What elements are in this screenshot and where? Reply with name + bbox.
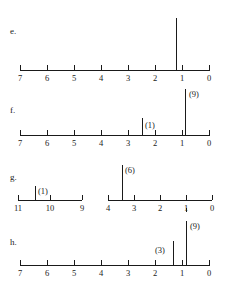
- spectrum-peak: [35, 186, 36, 200]
- axis-tick: [128, 65, 129, 70]
- peak-integral-label: (9): [189, 89, 199, 99]
- axis-tick-label: 6: [40, 73, 54, 83]
- axis-tick-label: 2: [148, 73, 162, 83]
- axis-baseline-g-right: [108, 200, 212, 201]
- axis-tick: [101, 260, 102, 265]
- axis-tick: [20, 65, 21, 70]
- axis-tick-label: 9: [75, 203, 89, 213]
- axis-tick: [182, 65, 183, 70]
- axis-tick-label: 3: [121, 268, 135, 278]
- spectrum-panel-h: h. 76543210(3)(9): [0, 215, 231, 281]
- axis-baseline-g-left: [18, 200, 82, 201]
- spectrum-peak: [122, 165, 123, 200]
- axis-subtick-below: [186, 208, 187, 212]
- peak-integral-label: (3): [155, 245, 165, 255]
- spectrum-peak: [185, 89, 186, 135]
- axis-h: 76543210(3)(9): [0, 215, 231, 281]
- axis-g-left-segment: 11109(1)43210(6): [0, 150, 231, 215]
- axis-tick-label: 0: [202, 268, 216, 278]
- spectrum-peak: [176, 18, 177, 70]
- axis-tick: [212, 195, 213, 200]
- axis-tick: [18, 195, 19, 200]
- axis-tick-label: 1: [175, 268, 189, 278]
- axis-e: 76543210: [0, 0, 231, 85]
- axis-tick-label: 4: [94, 138, 108, 148]
- peak-integral-label: (1): [145, 120, 155, 130]
- axis-tick: [182, 260, 183, 265]
- axis-tick-label: 2: [153, 203, 167, 213]
- spectrum-peak: [186, 221, 187, 265]
- axis-tick-label: 2: [148, 138, 162, 148]
- axis-tick-label: 3: [121, 138, 135, 148]
- axis-tick: [47, 260, 48, 265]
- nmr-spectra-figure: e. 76543210 f. 76543210(1)(9) g. 11109(1…: [0, 0, 231, 281]
- axis-tick: [20, 130, 21, 135]
- axis-tick-label: 1: [175, 73, 189, 83]
- axis-tick: [74, 260, 75, 265]
- axis-tick-label: 4: [101, 203, 115, 213]
- axis-tick-label: 10: [43, 203, 57, 213]
- axis-tick-label: 4: [94, 73, 108, 83]
- axis-tick-label: 0: [202, 73, 216, 83]
- axis-tick-label: 11: [11, 203, 25, 213]
- axis-tick: [209, 130, 210, 135]
- peak-integral-label: (6): [125, 165, 135, 175]
- axis-tick: [47, 130, 48, 135]
- axis-tick-label: 1: [175, 138, 189, 148]
- axis-tick-label: 7: [13, 138, 27, 148]
- peak-integral-label: (9): [190, 221, 200, 231]
- peak-integral-label: (1): [38, 186, 48, 196]
- axis-tick-label: 2: [148, 268, 162, 278]
- axis-tick-label: 5: [67, 73, 81, 83]
- axis-tick-label: 6: [40, 138, 54, 148]
- axis-tick: [186, 195, 187, 200]
- axis-tick-label: 4: [94, 268, 108, 278]
- axis-tick: [47, 65, 48, 70]
- axis-tick-label: 7: [13, 268, 27, 278]
- axis-tick-label: 0: [202, 138, 216, 148]
- axis-tick: [155, 130, 156, 135]
- axis-tick-label: 3: [121, 73, 135, 83]
- spectrum-peak: [173, 241, 174, 265]
- axis-tick: [74, 65, 75, 70]
- axis-tick: [182, 130, 183, 135]
- axis-tick: [209, 65, 210, 70]
- axis-tick: [20, 260, 21, 265]
- axis-tick: [155, 260, 156, 265]
- axis-f: 76543210(1)(9): [0, 85, 231, 150]
- axis-tick-label: 5: [67, 138, 81, 148]
- axis-tick: [108, 195, 109, 200]
- axis-tick-label: 7: [13, 73, 27, 83]
- axis-baseline-h: [20, 265, 210, 266]
- axis-tick: [128, 260, 129, 265]
- spectrum-panel-f: f. 76543210(1)(9): [0, 85, 231, 150]
- axis-baseline-f: [20, 135, 210, 136]
- axis-tick: [50, 195, 51, 200]
- axis-tick: [155, 65, 156, 70]
- axis-tick: [74, 130, 75, 135]
- axis-baseline-e: [20, 70, 210, 71]
- spectrum-panel-e: e. 76543210: [0, 0, 231, 85]
- axis-tick-label: 6: [40, 268, 54, 278]
- axis-tick: [101, 130, 102, 135]
- axis-tick: [82, 195, 83, 200]
- axis-tick: [209, 260, 210, 265]
- axis-tick: [128, 130, 129, 135]
- axis-tick: [160, 195, 161, 200]
- spectrum-peak: [142, 118, 143, 135]
- axis-tick-label: 5: [67, 268, 81, 278]
- spectrum-panel-g: g. 11109(1)43210(6): [0, 150, 231, 215]
- axis-tick-label: 3: [127, 203, 141, 213]
- axis-tick: [101, 65, 102, 70]
- axis-tick: [134, 195, 135, 200]
- axis-tick-label: 0: [205, 203, 219, 213]
